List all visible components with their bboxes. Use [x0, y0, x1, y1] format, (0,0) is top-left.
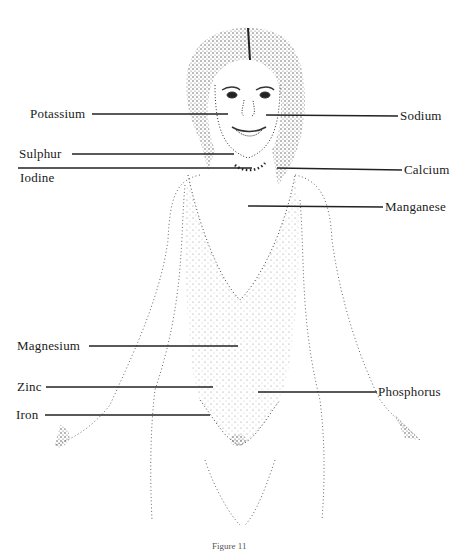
label-zinc: Zinc	[17, 380, 42, 394]
sodium-line	[266, 115, 398, 116]
label-sulphur: Sulphur	[19, 147, 62, 161]
face-drawing	[215, 85, 280, 170]
label-potassium: Potassium	[30, 107, 85, 121]
label-manganese: Manganese	[385, 200, 446, 214]
swimsuit-shading	[55, 175, 420, 448]
label-sodium: Sodium	[400, 109, 442, 123]
label-calcium: Calcium	[404, 163, 449, 177]
figure-caption: Figure 11	[212, 541, 246, 551]
label-phosphorus: Phosphorus	[378, 385, 441, 399]
manganese-line	[248, 206, 383, 207]
label-magnesium: Magnesium	[17, 339, 80, 353]
label-iodine: Iodine	[20, 171, 54, 185]
calcium-line	[277, 168, 402, 170]
label-iron: Iron	[16, 408, 38, 422]
hair-drawing	[186, 28, 305, 185]
